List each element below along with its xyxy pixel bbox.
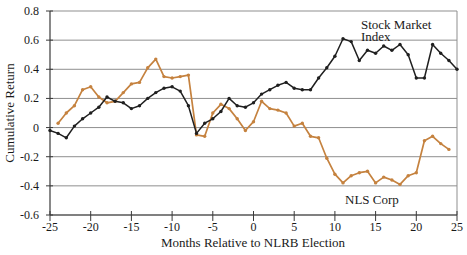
data-point-stock-market-index <box>350 40 353 43</box>
data-point-nls-corp <box>309 135 312 138</box>
data-point-stock-market-index <box>219 110 222 113</box>
x-axis-title: Months Relative to NLRB Election <box>161 235 345 251</box>
data-point-stock-market-index <box>227 97 230 100</box>
data-point-stock-market-index <box>65 136 68 139</box>
data-point-stock-market-index <box>358 59 361 62</box>
data-point-nls-corp <box>268 107 271 110</box>
data-point-nls-corp <box>138 81 141 84</box>
data-point-nls-corp <box>423 139 426 142</box>
data-point-stock-market-index <box>146 97 149 100</box>
x-tick-label: 20 <box>410 220 422 234</box>
data-point-nls-corp <box>350 174 353 177</box>
data-point-stock-market-index <box>179 89 182 92</box>
data-point-stock-market-index <box>130 107 133 110</box>
data-point-stock-market-index <box>455 68 458 71</box>
data-point-nls-corp <box>333 173 336 176</box>
data-point-nls-corp <box>227 107 230 110</box>
x-tick-label: -25 <box>42 220 58 234</box>
x-tick-label: 25 <box>451 220 463 234</box>
data-point-nls-corp <box>203 135 206 138</box>
data-point-stock-market-index <box>244 106 247 109</box>
data-point-stock-market-index <box>423 76 426 79</box>
data-point-stock-market-index <box>203 122 206 125</box>
data-point-nls-corp <box>325 157 328 160</box>
data-point-nls-corp <box>211 111 214 114</box>
data-point-stock-market-index <box>317 76 320 79</box>
data-point-nls-corp <box>276 108 279 111</box>
y-tick-label: -0.4 <box>20 179 39 193</box>
y-tick-label: 0.6 <box>24 33 39 47</box>
data-point-stock-market-index <box>293 87 296 90</box>
data-point-nls-corp <box>439 142 442 145</box>
data-point-stock-market-index <box>439 52 442 55</box>
data-point-nls-corp <box>130 82 133 85</box>
data-point-stock-market-index <box>309 88 312 91</box>
x-tick-label: 15 <box>370 220 382 234</box>
series-label-stock-market-index: Stock Market Index <box>361 19 431 43</box>
data-point-nls-corp <box>122 91 125 94</box>
data-point-nls-corp <box>179 75 182 78</box>
data-point-nls-corp <box>73 104 76 107</box>
data-point-nls-corp <box>170 76 173 79</box>
data-point-stock-market-index <box>260 92 263 95</box>
data-point-stock-market-index <box>122 101 125 104</box>
data-point-nls-corp <box>56 122 59 125</box>
data-point-stock-market-index <box>431 43 434 46</box>
data-point-nls-corp <box>341 181 344 184</box>
data-point-stock-market-index <box>415 76 418 79</box>
data-point-nls-corp <box>358 171 361 174</box>
data-point-nls-corp <box>431 135 434 138</box>
x-tick-label: -5 <box>208 220 218 234</box>
data-point-nls-corp <box>236 117 239 120</box>
series-label-line: Index <box>361 31 431 43</box>
y-tick-label: -0.6 <box>20 208 39 222</box>
data-point-stock-market-index <box>268 88 271 91</box>
data-point-stock-market-index <box>374 52 377 55</box>
y-tick-label: 0.2 <box>24 91 39 105</box>
x-tick-label: 0 <box>251 220 257 234</box>
data-point-stock-market-index <box>195 132 198 135</box>
data-point-stock-market-index <box>89 111 92 114</box>
series-label-nls-corp: NLS Corp <box>345 194 399 206</box>
data-point-nls-corp <box>187 73 190 76</box>
data-point-stock-market-index <box>284 81 287 84</box>
data-point-stock-market-index <box>333 55 336 58</box>
data-point-stock-market-index <box>97 106 100 109</box>
y-axis-title: Cumulative Return <box>2 63 18 162</box>
data-point-nls-corp <box>154 57 157 60</box>
x-tick-label: -10 <box>164 220 180 234</box>
data-point-stock-market-index <box>252 101 255 104</box>
data-point-stock-market-index <box>398 43 401 46</box>
data-point-stock-market-index <box>154 91 157 94</box>
data-point-nls-corp <box>89 85 92 88</box>
data-point-stock-market-index <box>170 85 173 88</box>
data-point-stock-market-index <box>407 53 410 56</box>
data-point-stock-market-index <box>81 117 84 120</box>
data-point-nls-corp <box>284 111 287 114</box>
data-point-stock-market-index <box>73 124 76 127</box>
data-point-stock-market-index <box>276 84 279 87</box>
data-point-nls-corp <box>398 183 401 186</box>
data-point-nls-corp <box>260 100 263 103</box>
chart-figure: 0.80.60.40.20-0.2-0.4-0.6-25-20-15-10-50… <box>0 0 467 255</box>
data-point-nls-corp <box>162 75 165 78</box>
data-point-stock-market-index <box>447 59 450 62</box>
data-point-nls-corp <box>81 88 84 91</box>
y-tick-label: 0 <box>33 121 39 135</box>
data-point-stock-market-index <box>105 95 108 98</box>
data-point-nls-corp <box>366 170 369 173</box>
data-point-stock-market-index <box>366 49 369 52</box>
data-point-nls-corp <box>146 66 149 69</box>
x-tick-label: -15 <box>123 220 139 234</box>
data-point-nls-corp <box>65 111 68 114</box>
data-point-nls-corp <box>301 122 304 125</box>
data-point-stock-market-index <box>390 49 393 52</box>
data-point-nls-corp <box>244 129 247 132</box>
y-tick-label: -0.2 <box>20 150 39 164</box>
x-tick-label: -20 <box>83 220 99 234</box>
data-point-stock-market-index <box>211 117 214 120</box>
data-point-stock-market-index <box>138 104 141 107</box>
data-point-nls-corp <box>390 178 393 181</box>
data-point-stock-market-index <box>341 37 344 40</box>
data-point-stock-market-index <box>56 132 59 135</box>
